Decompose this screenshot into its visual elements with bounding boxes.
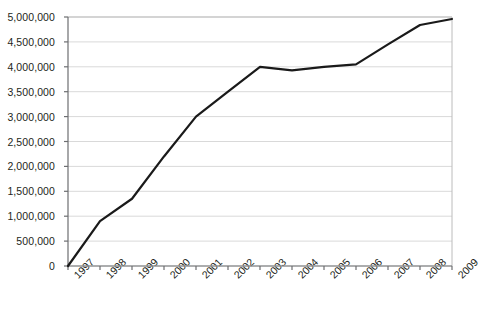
gridlines: [68, 17, 452, 266]
data-series-line: [68, 19, 452, 266]
